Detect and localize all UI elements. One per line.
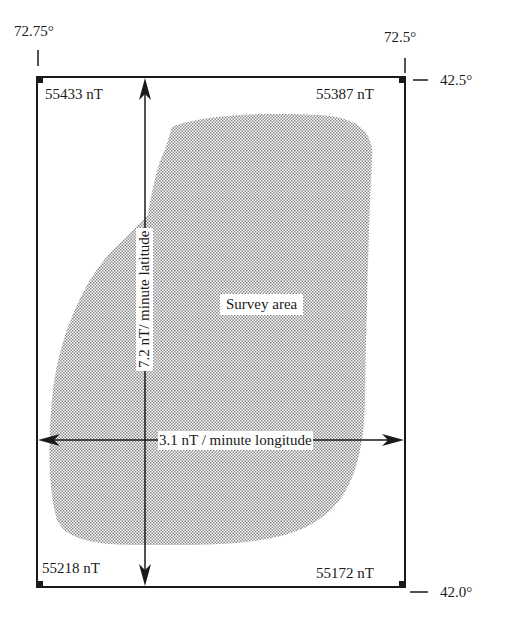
corner-marker-bottom-left: [37, 581, 43, 587]
latitude-label-top: 42.5°: [440, 73, 472, 88]
corner-value-bottom-right: 55172 nT: [316, 566, 374, 581]
corner-marker-top-left: [37, 77, 43, 83]
latitude-gradient-label: 7.2 nT/ minute latitude: [136, 228, 153, 371]
corner-value-top-right: 55387 nT: [316, 87, 374, 102]
corner-marker-top-right: [399, 77, 405, 83]
latitude-label-bottom: 42.0°: [440, 585, 472, 600]
corner-marker-bottom-right: [399, 581, 405, 587]
survey-area-region: [49, 114, 372, 545]
longitude-label-left: 72.75°: [14, 24, 54, 39]
longitude-label-right: 72.5°: [384, 30, 416, 45]
longitude-gradient-label: 3.1 nT / minute longitude: [158, 431, 313, 450]
survey-area-label: Survey area: [220, 294, 303, 315]
corner-value-top-left: 55433 nT: [45, 87, 103, 102]
corner-value-bottom-left: 55218 nT: [42, 561, 100, 576]
